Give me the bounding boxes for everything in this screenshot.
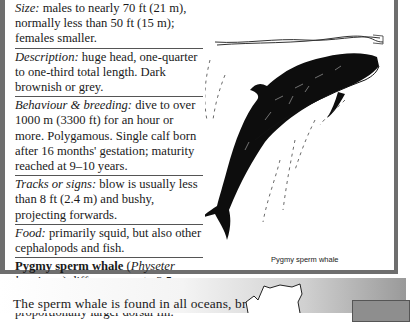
fact-behaviour: Behaviour & breeding: dive to over 1000 … — [15, 97, 203, 176]
fact-panel: Size: males to nearly 70 ft (21 m), norm… — [0, 0, 398, 274]
map-outline — [240, 282, 310, 313]
map-inset — [352, 300, 410, 322]
fact-size: Size: males to nearly 70 ft (21 m), norm… — [15, 0, 203, 49]
fact-list: Size: males to nearly 70 ft (21 m), norm… — [15, 0, 203, 321]
whale-illustration — [205, 0, 395, 262]
fact-food: Food: primarily squid, but also other ce… — [15, 225, 203, 258]
fact-tracks: Tracks or signs: blow is usually less th… — [15, 176, 203, 225]
pygmy-name: Pygmy sperm whale — [15, 259, 123, 273]
fact-description: Description: huge head, one-quarter to o… — [15, 49, 203, 98]
illustration-caption: Pygmy sperm whale — [271, 255, 339, 264]
body-paragraph: The sperm whale is found in all oceans, … — [13, 296, 270, 312]
